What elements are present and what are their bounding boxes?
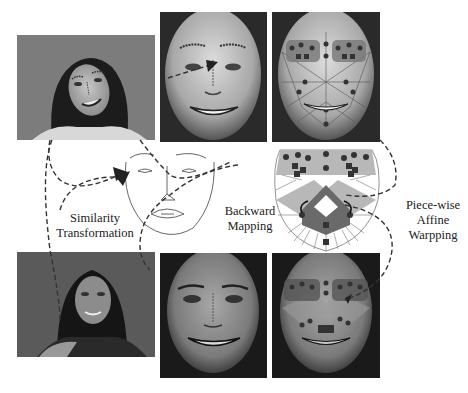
label-piecewise-affine-warpping: Piece-wise Affine Warpping — [398, 198, 468, 243]
arrow-to-sketch-2 — [60, 177, 122, 210]
face-mesh-graphic-bottom — [272, 253, 380, 378]
label-line: Warpping — [398, 228, 468, 243]
mesh-face-top — [272, 12, 380, 142]
label-line: Piece-wise — [398, 198, 468, 213]
face-photo-graphic — [17, 35, 155, 140]
face-aligned-graphic — [160, 12, 267, 142]
arrow-top-photo-to-sketch — [49, 140, 125, 186]
face-aligned-graphic-bottom — [160, 253, 267, 378]
face-mesh-graphic — [272, 12, 380, 142]
label-backward-mapping: Backward Mapping — [222, 204, 278, 234]
mesh-face-bottom — [272, 253, 380, 378]
input-photo-top — [17, 35, 155, 140]
label-line: Backward — [222, 204, 278, 219]
triangle-mesh-graphic — [272, 145, 380, 253]
label-line: Similarity — [50, 211, 140, 226]
mesh-template — [272, 145, 380, 253]
aligned-face-bottom — [160, 253, 267, 378]
input-photo-bottom — [17, 252, 155, 357]
face-photo-graphic-bottom — [17, 252, 155, 357]
aligned-face-top — [160, 12, 267, 142]
label-line: Mapping — [222, 219, 278, 234]
label-line: Transformation — [50, 226, 140, 241]
label-line: Affine — [398, 213, 468, 228]
label-similarity-transformation: Similarity Transformation — [50, 211, 140, 241]
